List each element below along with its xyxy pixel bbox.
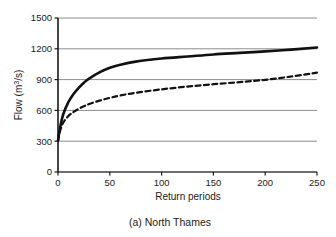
x-tick-label-200: 200 [257,177,273,188]
y-tick-label-600: 600 [36,105,52,116]
series-dashed-curve [58,73,317,141]
y-tick-labels-group: 030060090012001500 [31,12,52,177]
y-tick-label-300: 300 [36,136,52,147]
y-tick-label-0: 0 [47,166,52,177]
x-tick-label-100: 100 [154,177,170,188]
x-tick-label-0: 0 [55,177,60,188]
figure-caption: (a) North Thames [129,216,211,228]
y-tick-label-1500: 1500 [31,12,52,23]
x-tick-label-150: 150 [205,177,221,188]
x-tick-label-250: 250 [309,177,325,188]
y-tick-label-900: 900 [36,74,52,85]
y-tick-label-1200: 1200 [31,43,52,54]
x-tick-labels-group: 050100150200250 [55,177,325,188]
svg-text:Flow (m3/s): Flow (m3/s) [13,70,25,121]
figure-container: 030060090012001500 050100150200250 Retur… [0,0,336,237]
y-axis-title-base: Flow (m [13,85,24,121]
y-axis-title-tail: /s) [13,70,24,81]
y-axis-title: Flow (m3/s) [13,70,25,121]
x-axis-title: Return periods [155,191,221,202]
x-tick-label-50: 50 [105,177,116,188]
data-series-group [58,48,317,141]
chart-canvas: 030060090012001500 050100150200250 Retur… [0,0,336,237]
series-solid-curve [58,48,317,141]
gridlines-group [58,18,317,172]
